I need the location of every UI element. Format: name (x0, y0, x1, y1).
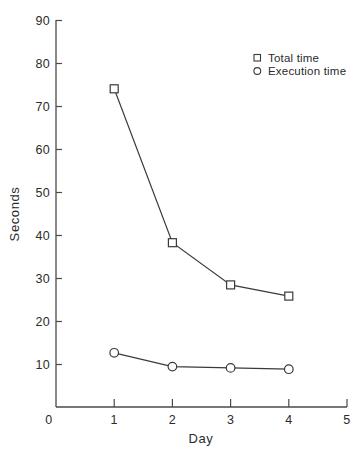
x-tick-label-4: 4 (285, 413, 292, 427)
y-tick-label-20: 20 (35, 315, 50, 329)
x-tick-label-2: 2 (169, 413, 176, 427)
y-axis-title: Seconds (7, 187, 22, 242)
circle-marker-icon (110, 349, 119, 358)
y-tick-label-50: 50 (35, 186, 50, 200)
legend-label-total-time: Total time (268, 52, 319, 64)
chart-canvas: 90 80 70 60 50 40 30 20 10 0 1 2 3 4 5 (0, 0, 364, 449)
y-axis-tick-labels: 90 80 70 60 50 40 30 20 10 (35, 14, 50, 372)
x-tick-label-0: 0 (45, 413, 52, 427)
y-tick-label-90: 90 (35, 14, 50, 28)
x-tick-label-1: 1 (111, 413, 118, 427)
y-tick-label-80: 80 (35, 57, 50, 71)
circle-marker-icon (226, 364, 235, 373)
series-execution-time (110, 349, 293, 374)
x-axis-title: Day (189, 431, 214, 446)
series-total-time (110, 85, 293, 300)
y-tick-label-30: 30 (35, 272, 50, 286)
series-total-time-line (114, 89, 289, 296)
y-tick-label-70: 70 (35, 100, 50, 114)
square-marker-icon (227, 281, 235, 289)
y-tick-label-40: 40 (35, 229, 50, 243)
y-tick-label-10: 10 (35, 358, 50, 372)
chart-legend: Total time Execution time (254, 52, 346, 77)
y-axis-ticks (56, 21, 62, 365)
x-tick-label-3: 3 (227, 413, 234, 427)
x-tick-label-5: 5 (343, 413, 350, 427)
square-marker-icon (285, 292, 293, 300)
x-axis-ticks (114, 399, 347, 407)
x-axis-tick-labels: 0 1 2 3 4 5 (45, 413, 350, 427)
circle-marker-icon (168, 362, 177, 371)
y-tick-label-60: 60 (35, 143, 50, 157)
square-marker-icon (110, 85, 118, 93)
square-marker-icon (168, 239, 176, 247)
legend-label-execution-time: Execution time (268, 65, 346, 77)
line-chart: 90 80 70 60 50 40 30 20 10 0 1 2 3 4 5 (0, 0, 364, 449)
legend-circle-marker-icon (254, 68, 261, 75)
legend-square-marker-icon (254, 55, 261, 62)
series-execution-time-line (114, 353, 289, 369)
circle-marker-icon (285, 365, 294, 374)
